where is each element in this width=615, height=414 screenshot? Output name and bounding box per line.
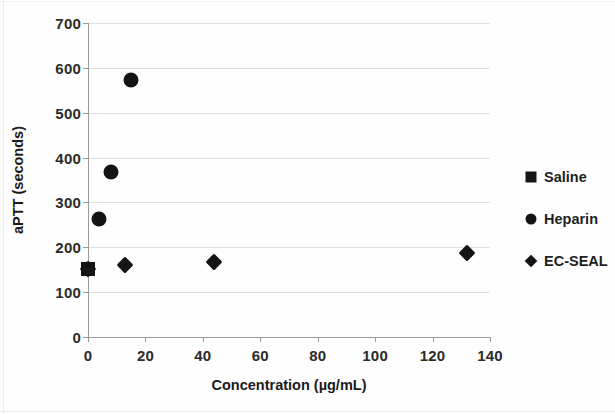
x-axis-tick <box>318 337 319 342</box>
data-point-heparin <box>92 212 107 227</box>
x-axis-tick-label: 100 <box>362 347 388 364</box>
x-axis-tick <box>375 337 376 342</box>
y-axis-tick-label: 400 <box>55 149 81 166</box>
x-axis-tick <box>490 337 491 342</box>
x-axis-tick-label: 80 <box>309 347 326 364</box>
chart-figure: 0100200300400500600700 02040608010012014… <box>0 0 615 414</box>
x-axis-ticks: 020406080100120140 <box>88 337 491 338</box>
circle-marker-icon <box>523 211 539 227</box>
x-axis-tick-label: 140 <box>477 347 503 364</box>
y-axis-tick-label: 300 <box>55 194 81 211</box>
x-axis-tick-label: 0 <box>84 347 93 364</box>
legend-item-ec-seal[interactable]: EC-SEAL <box>523 250 613 272</box>
data-point-heparin <box>124 73 139 88</box>
legend-item-saline[interactable]: Saline <box>523 166 613 188</box>
scan-edge-top <box>0 1 615 2</box>
x-axis-label: Concentration (µg/mL) <box>212 377 367 393</box>
legend-item-heparin[interactable]: Heparin <box>523 208 613 230</box>
y-axis-tick-label: 200 <box>55 239 81 256</box>
y-axis-label: aPTT (seconds) <box>10 126 26 234</box>
legend-label: Saline <box>544 169 587 185</box>
diamond-marker-icon <box>523 253 539 269</box>
x-axis-tick-label: 120 <box>420 347 446 364</box>
y-axis-tick-label: 500 <box>55 104 81 121</box>
x-axis-tick <box>88 337 89 342</box>
legend-label: EC-SEAL <box>544 253 608 269</box>
x-axis-tick-label: 20 <box>137 347 154 364</box>
data-point-ec-seal <box>117 256 134 273</box>
data-point-ec-seal <box>459 245 476 262</box>
y-axis-tick-label: 700 <box>55 15 81 32</box>
chart-legend: SalineHeparinEC-SEAL <box>523 166 613 272</box>
x-axis-tick-label: 60 <box>252 347 269 364</box>
data-point-ec-seal <box>206 254 223 271</box>
legend-label: Heparin <box>544 211 598 227</box>
x-axis-tick-label: 40 <box>194 347 211 364</box>
square-marker-icon <box>523 169 539 185</box>
x-axis-tick <box>145 337 146 342</box>
y-axis-tick-label: 100 <box>55 284 81 301</box>
y-axis-tick-label: 0 <box>72 329 81 346</box>
x-axis-tick <box>260 337 261 342</box>
data-markers <box>88 23 490 337</box>
data-point-heparin <box>103 164 118 179</box>
x-axis-tick <box>433 337 434 342</box>
scan-edge-left <box>3 0 4 414</box>
x-axis-tick <box>203 337 204 342</box>
y-axis-tick-label: 600 <box>55 59 81 76</box>
scan-edge-bottom <box>0 411 615 412</box>
